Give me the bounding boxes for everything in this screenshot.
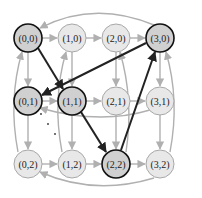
node-1-2: (1,2) xyxy=(58,150,86,178)
highlight-edges xyxy=(38,43,155,152)
node-1-1: (1,1) xyxy=(58,87,86,115)
node-label: (1,2) xyxy=(62,159,81,171)
node-label: (1,0) xyxy=(62,33,81,45)
grid-graph-diagram: (0,0)(1,0)(2,0)(3,0)(0,1)(1,1)(2,1)(3,1)… xyxy=(0,0,202,198)
node-label: (0,0) xyxy=(18,33,37,45)
dotted-trail xyxy=(40,113,56,135)
node-label: (2,2) xyxy=(106,159,125,171)
node-0-2: (0,2) xyxy=(14,150,42,178)
node-label: (3,2) xyxy=(150,159,169,171)
node-label: (1,1) xyxy=(62,96,81,108)
node-label: (0,1) xyxy=(18,96,37,108)
node-2-2: (2,2) xyxy=(102,150,130,178)
node-label: (2,1) xyxy=(106,96,125,108)
node-0-0: (0,0) xyxy=(14,24,42,52)
node-2-0: (2,0) xyxy=(102,24,130,52)
node-3-0: (3,0) xyxy=(146,24,174,52)
node-2-1: (2,1) xyxy=(102,87,130,115)
node-3-1: (3,1) xyxy=(146,87,174,115)
node-3-2: (3,2) xyxy=(146,150,174,178)
node-label: (3,1) xyxy=(150,96,169,108)
node-1-0: (1,0) xyxy=(58,24,86,52)
node-0-1: (0,1) xyxy=(14,87,42,115)
node-label: (2,0) xyxy=(106,33,125,45)
node-label: (0,2) xyxy=(18,159,37,171)
node-label: (3,0) xyxy=(150,33,169,45)
